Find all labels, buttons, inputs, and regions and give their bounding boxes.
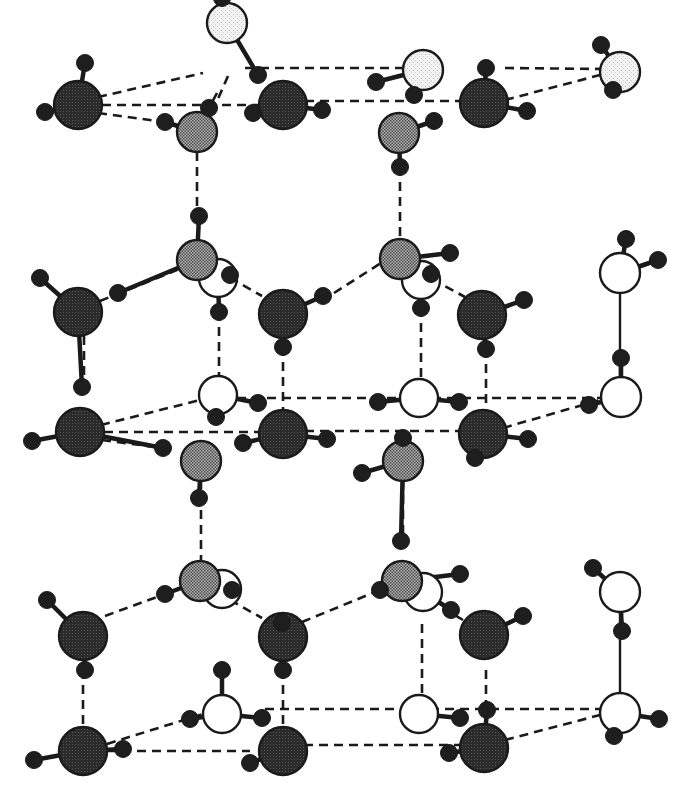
oxygen-atom-medium — [380, 239, 420, 279]
hydrogen-atom — [211, 304, 228, 321]
hydrogen-atom — [157, 586, 174, 603]
hydrogen-atom — [392, 159, 409, 176]
hydrogen-atom — [581, 397, 598, 414]
hydrogen-atom — [423, 266, 440, 283]
hydrogen-atom — [605, 82, 622, 99]
hydrogen-atom — [155, 440, 172, 457]
hydrogen-atom — [393, 533, 410, 550]
hydrogen-atom — [478, 341, 495, 358]
hydrogen-atom — [224, 582, 241, 599]
hydrogen-atom — [515, 608, 532, 625]
hydrogen-bond-line — [101, 400, 200, 425]
molecular-lattice-diagram — [0, 0, 693, 798]
oxygen-atom-dark — [54, 81, 102, 129]
hydrogen-atom — [606, 728, 623, 745]
hydrogen-atom — [24, 433, 41, 450]
hydrogen-atom — [37, 104, 54, 121]
hydrogen-atom — [478, 60, 495, 77]
oxygen-atom-dark — [460, 724, 508, 772]
oxygen-atom-dark — [259, 81, 307, 129]
oxygen-atom-dark — [259, 727, 307, 775]
hydrogen-atom — [74, 379, 91, 396]
hydrogen-atom — [519, 103, 536, 120]
hydrogen-atom — [208, 409, 225, 426]
oxygen-atom-medium — [379, 113, 419, 153]
hydrogen-bond-line — [505, 715, 600, 740]
hydrogen-atom — [370, 394, 387, 411]
oxygen-atom-medium — [382, 561, 422, 601]
oxygen-atom-dark — [56, 408, 104, 456]
hydrogen-atom — [157, 114, 174, 131]
hydrogen-atom — [222, 267, 239, 284]
ice-lattice-svg — [0, 0, 693, 798]
hydrogen-atom — [354, 465, 371, 482]
hydrogen-atom — [275, 339, 292, 356]
hydrogen-atom — [467, 450, 484, 467]
hydrogen-atom — [274, 615, 291, 632]
hydrogen-atom — [242, 755, 259, 772]
oxygen-atom-white — [400, 379, 438, 417]
oxygen-atom-dark — [458, 291, 506, 339]
hydrogen-atom — [250, 67, 267, 84]
hydrogen-bond-line — [302, 590, 380, 622]
oxygen-atom-dark — [59, 612, 107, 660]
hydrogen-bond-line — [334, 263, 381, 293]
hydrogen-atom — [110, 285, 127, 302]
hydrogen-bond-line — [505, 68, 605, 69]
hydrogen-atom — [319, 431, 336, 448]
hydrogen-atom — [26, 752, 43, 769]
hydrogen-atom — [585, 560, 602, 577]
hydrogen-atom — [413, 300, 430, 317]
hydrogen-atom — [250, 395, 267, 412]
hydrogen-atom — [254, 710, 271, 727]
hydrogen-atom — [442, 245, 459, 262]
hydrogen-atom — [182, 711, 199, 728]
hydrogen-atom — [426, 113, 443, 130]
hydrogen-atom — [395, 430, 412, 447]
hydrogen-atom — [214, 662, 231, 679]
oxygen-atom-medium — [177, 240, 217, 280]
hydrogen-bonds — [83, 68, 605, 751]
hydrogen-atom — [593, 37, 610, 54]
hydrogen-atom — [614, 623, 631, 640]
hydrogen-atom — [235, 435, 252, 452]
hydrogen-atom — [520, 431, 537, 448]
hydrogen-atom — [314, 102, 331, 119]
hydrogen-atom — [479, 702, 496, 719]
hydrogen-atom — [315, 288, 332, 305]
oxygen-atom-dark — [460, 79, 508, 127]
oxygen-atom-white — [203, 695, 241, 733]
hydrogen-bond-line — [98, 113, 165, 122]
hydrogen-atom — [650, 252, 667, 269]
oxygen-atom-white — [400, 695, 438, 733]
hydrogen-atom — [651, 711, 668, 728]
oxygen-atom-dark — [259, 290, 307, 338]
hydrogen-bond-line — [98, 73, 203, 97]
hydrogen-atom — [613, 350, 630, 367]
oh-bonds — [32, 0, 659, 763]
hydrogen-atom — [406, 87, 423, 104]
hydrogen-atom — [191, 490, 208, 507]
hydrogen-atom — [443, 602, 460, 619]
oxygen-atom-white — [600, 253, 640, 293]
oxygen-atom-white — [600, 693, 640, 733]
oxygen-atom-light — [403, 50, 443, 90]
hydrogen-atom — [39, 592, 56, 609]
hydrogen-atom — [275, 662, 292, 679]
hydrogen-atom — [372, 582, 389, 599]
oxygen-atom-dark — [460, 611, 508, 659]
oxygen-atom-dark — [59, 727, 107, 775]
hydrogen-atom — [115, 741, 132, 758]
hydrogen-atom — [441, 745, 458, 762]
hydrogen-atom — [191, 208, 208, 225]
hydrogen-atom — [32, 270, 49, 287]
hydrogen-atom — [451, 394, 468, 411]
oxygen-atom-dark — [459, 410, 507, 458]
hydrogen-atom — [245, 105, 262, 122]
hydrogen-atom — [201, 100, 218, 117]
hydrogen-atom — [618, 231, 635, 248]
oxygen-atom-medium — [180, 561, 220, 601]
oxygen-atom-white — [600, 572, 640, 612]
hydrogen-atom — [516, 292, 533, 309]
hydrogen-bond-line — [505, 75, 600, 100]
